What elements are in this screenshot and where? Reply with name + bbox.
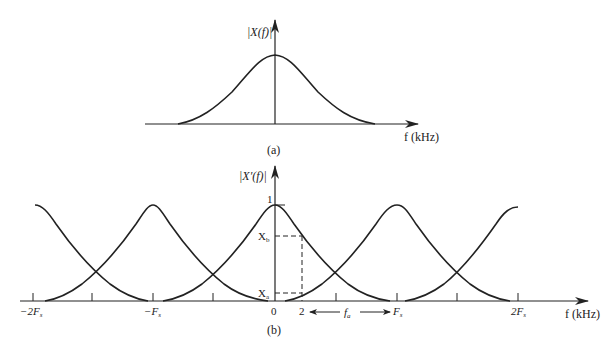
tick-label-two: 2: [299, 305, 305, 317]
dashed-guides: [275, 236, 302, 301]
panel-a: |X(f)| f (kHz) (a): [145, 20, 439, 157]
panel-a-spectrum-curve: [178, 55, 375, 124]
replica-2fs: [405, 207, 518, 301]
panel-b: |X′(f)| 1 Xb Xa −2Fs −Fs 0 2 Fs 2Fs fa f…: [20, 166, 600, 337]
panel-b-y-label: |X′(f)|: [239, 169, 267, 183]
tick-label-fs: Fs: [392, 305, 403, 319]
replica-zero: [163, 205, 390, 301]
fa-label: fa: [344, 306, 351, 320]
tick-label-zero: 0: [271, 305, 277, 317]
spectral-replicas: [35, 205, 518, 301]
peak-label: 1: [267, 193, 273, 205]
tick-label-2fs: 2Fs: [511, 305, 526, 319]
sampling-spectrum-figure: |X(f)| f (kHz) (a): [0, 0, 608, 355]
panel-a-x-label: f (kHz): [404, 130, 439, 144]
xb-label: Xb: [258, 230, 270, 244]
tick-label-negfs: −Fs: [144, 305, 161, 319]
replica-neg2fs: [35, 205, 148, 301]
panel-a-caption: (a): [267, 143, 280, 157]
panel-b-x-label: f (kHz): [565, 307, 600, 321]
panel-b-caption: (b): [267, 323, 281, 337]
panel-a-y-label: |X(f)|: [247, 25, 272, 39]
tick-label-neg2fs: −2Fs: [20, 305, 43, 319]
xa-label: Xa: [258, 287, 270, 301]
replica-fs: [285, 205, 510, 301]
